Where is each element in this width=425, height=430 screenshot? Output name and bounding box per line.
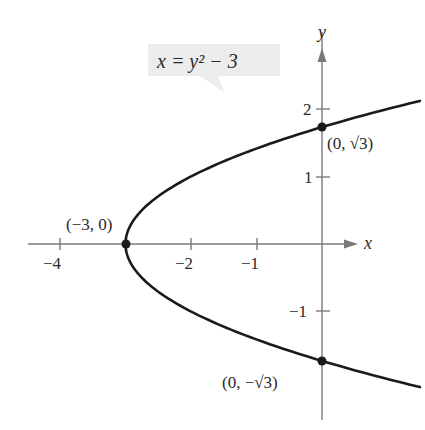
y-tick-label: 1 xyxy=(304,168,313,187)
y-tick-label: −1 xyxy=(289,302,307,321)
y-intercept-point-bottom xyxy=(318,357,327,366)
vertex-point xyxy=(122,240,131,249)
vertex-label: (−3, 0) xyxy=(66,215,112,234)
equation-label: x = y² − 3 xyxy=(156,50,238,73)
equation-callout: x = y² − 3 xyxy=(148,44,280,92)
x-axis: x xyxy=(28,233,372,253)
x-tick-label: −1 xyxy=(241,254,259,273)
y-intercept-point-top xyxy=(318,123,327,132)
x-tick-label: −2 xyxy=(175,254,193,273)
x-tick-label: −4 xyxy=(43,254,62,273)
y-tick-label: 2 xyxy=(303,100,312,119)
y-axis-label: y xyxy=(316,22,326,42)
parabola-plot: x = y² − 3 x y −4 −2 −1 2 1 −1 (−3, 0) (… xyxy=(0,0,425,430)
top-intercept-label: (0, √3) xyxy=(327,134,373,153)
x-axis-label: x xyxy=(363,233,372,253)
bottom-intercept-label: (0, −√3) xyxy=(222,373,278,392)
